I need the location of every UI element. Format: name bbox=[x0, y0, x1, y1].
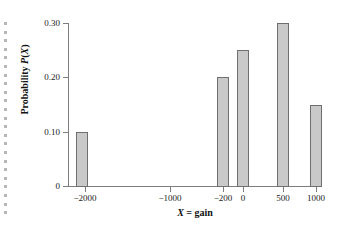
y-axis-tick-mark bbox=[63, 77, 68, 78]
x-axis-title-x-symbol: X bbox=[177, 207, 184, 218]
bar-0 bbox=[237, 50, 249, 187]
bar-neg2000 bbox=[76, 132, 88, 187]
probability-distribution-figure: 0.300.200.100 −2000−1000−20005001000 Pro… bbox=[0, 0, 345, 225]
y-axis-line bbox=[68, 23, 69, 187]
x-axis-title-equation: = gain bbox=[184, 207, 213, 218]
y-axis-tick-label: 0.20 bbox=[44, 73, 60, 82]
x-axis-tick-label: −200 bbox=[214, 194, 233, 203]
y-axis-title-close-paren: ) bbox=[19, 44, 30, 47]
x-axis-title: X = gain bbox=[68, 207, 322, 218]
x-axis-tick-label: 500 bbox=[276, 194, 290, 203]
x-axis-tick-mark bbox=[170, 187, 171, 192]
y-axis-title: Probability P(X) bbox=[19, 20, 30, 140]
x-axis-tick-label: −2000 bbox=[73, 194, 96, 203]
y-axis-tick-mark bbox=[63, 186, 68, 187]
x-axis-tick-mark bbox=[223, 187, 224, 192]
bar-1000 bbox=[310, 105, 322, 187]
x-axis-tick-mark bbox=[243, 187, 244, 192]
y-axis-tick-label: 0 bbox=[56, 182, 61, 191]
y-axis-tick-mark bbox=[63, 132, 68, 133]
x-axis-tick-label: −1000 bbox=[158, 194, 181, 203]
bar-500 bbox=[277, 23, 289, 187]
x-axis-tick-mark bbox=[283, 187, 284, 192]
y-axis-title-prefix: Probability bbox=[19, 64, 30, 115]
y-axis-title-p-symbol: P bbox=[19, 58, 30, 64]
y-axis-tick-label: 0.30 bbox=[44, 19, 60, 28]
x-axis-tick-mark bbox=[85, 187, 86, 192]
x-axis-tick-label: 1000 bbox=[307, 194, 325, 203]
y-axis-title-x-symbol: X bbox=[19, 48, 30, 55]
y-axis-title-open-paren: ( bbox=[19, 54, 30, 57]
x-axis-tick-label: 0 bbox=[241, 194, 246, 203]
bar-neg200 bbox=[217, 77, 229, 187]
x-axis-tick-mark bbox=[316, 187, 317, 192]
chart-plot-area: 0.300.200.100 −2000−1000−20005001000 Pro… bbox=[0, 0, 345, 225]
y-axis-tick-label: 0.10 bbox=[44, 128, 60, 137]
y-axis-tick-mark bbox=[63, 23, 68, 24]
